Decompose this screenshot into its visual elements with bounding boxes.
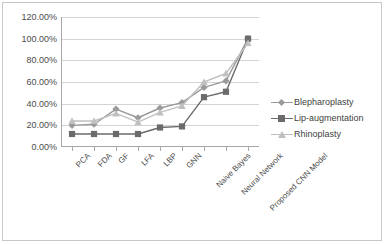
data-point-marker xyxy=(157,124,163,130)
data-point-marker xyxy=(201,94,207,100)
x-axis-tick xyxy=(226,147,227,151)
x-axis-tick-label: GNN xyxy=(185,152,203,170)
x-axis-tick xyxy=(160,147,161,151)
x-axis-tick-label: FDA xyxy=(97,152,114,169)
legend-marker-square-icon xyxy=(271,113,293,124)
legend-label: Lip-augmentation xyxy=(294,114,364,123)
legend-marker-shape xyxy=(278,131,286,138)
legend-item-lip-augmentation[interactable]: Lip-augmentation xyxy=(271,111,383,126)
y-axis-tick-label: 40.00% xyxy=(26,99,57,108)
x-axis-tick xyxy=(94,147,95,151)
data-point-marker xyxy=(223,89,229,95)
data-point-marker xyxy=(91,131,97,137)
data-point-marker xyxy=(135,131,141,137)
chart-legend: BlepharoplastyLip-augmentationRhinoplast… xyxy=(271,95,383,143)
x-axis-tick xyxy=(182,147,183,151)
x-axis-tick-label: PCA xyxy=(75,152,92,169)
x-axis-tick xyxy=(116,147,117,151)
y-axis-tick-label: 80.00% xyxy=(26,56,57,65)
data-point-marker xyxy=(134,119,141,126)
series-plot xyxy=(61,17,259,147)
legend-marker-shape xyxy=(278,99,285,106)
legend-item-rhinoplasty[interactable]: Rhinoplasty xyxy=(271,127,383,142)
x-axis-tick xyxy=(138,147,139,151)
data-point-marker xyxy=(222,77,229,84)
legend-marker-shape xyxy=(278,115,285,122)
y-axis-tick-label: 0.00% xyxy=(31,143,57,152)
chart-canvas: 0.00%20.00%40.00%60.00%80.00%100.00%120.… xyxy=(3,3,383,242)
chart-frame: 0.00%20.00%40.00%60.00%80.00%100.00%120.… xyxy=(2,2,382,241)
y-axis-tick-label: 100.00% xyxy=(21,34,57,43)
data-point-marker xyxy=(179,123,185,129)
plot-area: 0.00%20.00%40.00%60.00%80.00%100.00%120.… xyxy=(61,17,259,147)
data-point-marker xyxy=(113,131,119,137)
x-axis-tick xyxy=(72,147,73,151)
legend-marker-triangle-icon xyxy=(271,129,293,140)
legend-item-blepharoplasty[interactable]: Blepharoplasty xyxy=(271,95,383,110)
data-point-marker xyxy=(69,131,75,137)
legend-marker-diamond-icon xyxy=(271,97,293,108)
y-axis-tick-label: 120.00% xyxy=(21,13,57,22)
x-axis-tick-label: LFA xyxy=(140,152,156,168)
legend-label: Rhinoplasty xyxy=(294,130,341,139)
y-axis-tick-label: 60.00% xyxy=(26,78,57,87)
y-axis-tick-label: 20.00% xyxy=(26,121,57,130)
data-point-marker xyxy=(200,79,207,86)
x-axis-tick xyxy=(248,147,249,151)
x-axis-tick-label: GF xyxy=(117,152,131,166)
legend-label: Blepharoplasty xyxy=(294,98,354,107)
x-axis-tick-label: LBP xyxy=(162,152,178,168)
x-axis-tick xyxy=(204,147,205,151)
